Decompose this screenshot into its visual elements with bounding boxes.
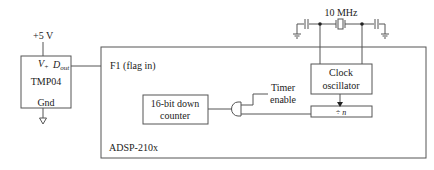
counter-label-line2: counter xyxy=(160,110,191,121)
divider-label: ÷ n xyxy=(336,108,346,117)
ground-icon xyxy=(40,118,47,124)
supply-label: +5 V xyxy=(33,30,54,41)
schematic-canvas: +5 V V+ Dout TMP04 Gnd F1 (flag in) 16-b… xyxy=(0,0,434,170)
counter-label-line1: 16-bit down xyxy=(151,98,200,109)
timer-enable-line1: Timer xyxy=(271,82,296,93)
sensor-name: TMP04 xyxy=(31,76,62,87)
junction-dot xyxy=(318,22,322,26)
timer-enable-line2: enable xyxy=(270,94,297,105)
and-gate-icon xyxy=(232,102,241,116)
dout-pin-label: Dout xyxy=(52,59,70,72)
clock-label-line1: Clock xyxy=(329,67,353,78)
junction-dot xyxy=(360,22,364,26)
gnd-pin-label: Gnd xyxy=(37,97,54,108)
clock-label-line2: oscillator xyxy=(322,80,360,91)
crystal-frequency-label: 10 MHz xyxy=(324,7,358,18)
flag-input-label: F1 (flag in) xyxy=(110,60,156,72)
dsp-name: ADSP-210x xyxy=(109,142,158,153)
timer-enable-wire xyxy=(241,94,268,105)
vplus-pin-label: V+ xyxy=(38,58,49,71)
